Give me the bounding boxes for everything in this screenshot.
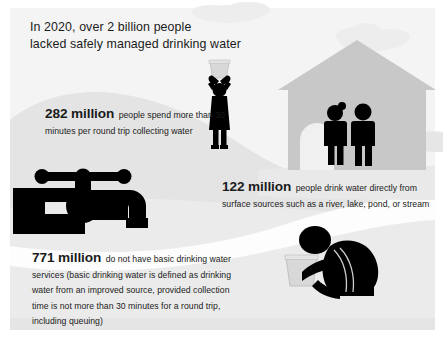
stat-block-122: 122 million people drink water directly … [222, 179, 434, 210]
headline-line-1: In 2020, over 2 billion people [30, 19, 300, 36]
stat-figure: 282 million [45, 106, 114, 121]
page-title: In 2020, over 2 billion people lacked sa… [30, 19, 300, 52]
infographic-canvas: In 2020, over 2 billion people lacked sa… [0, 0, 443, 338]
stat-figure: 771 million [32, 250, 101, 265]
stat-block-771: 771 million do not have basic drinking w… [32, 250, 237, 328]
headline-line-2: lacked safely managed drinking water [30, 36, 300, 53]
stat-figure: 122 million [222, 179, 291, 194]
stat-block-282: 282 million people spend more than 30 mi… [45, 106, 245, 137]
